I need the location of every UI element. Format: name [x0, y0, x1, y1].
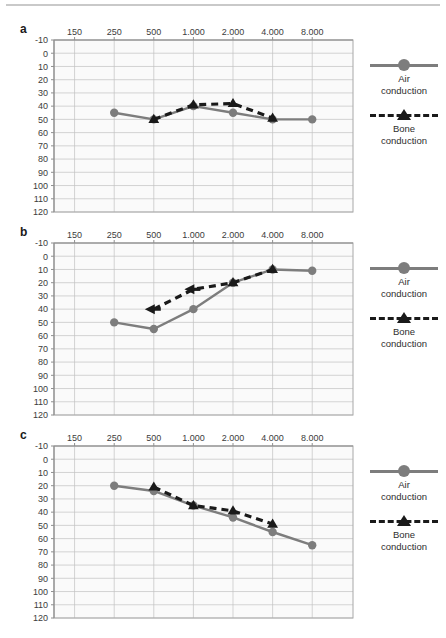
legend-bone-label-line1-a: Bone	[362, 123, 446, 134]
x-tick-label: 2.000	[222, 433, 245, 443]
legend-air-swatch-a	[362, 58, 446, 72]
legend-air-swatch-b	[362, 261, 446, 275]
legend-bone-c: Bone conduction	[362, 514, 446, 552]
air-conduction-point	[110, 481, 118, 489]
air-conduction-point	[308, 541, 316, 549]
legend-bone-b: Bone conduction	[362, 311, 446, 349]
y-tick-label: 50	[38, 521, 48, 531]
y-tick-label: 20	[38, 75, 48, 85]
y-tick-label: 70	[38, 141, 48, 151]
legend-bone-swatch-a	[362, 108, 446, 122]
audiogram-svg-a: 1502505001.0002.0004.0008.000-1001020304…	[0, 22, 360, 218]
y-tick-label: 40	[38, 507, 48, 517]
y-tick-label: 40	[38, 304, 48, 314]
legend-air-label-line2-b: conduction	[362, 288, 446, 299]
audiogram-svg-b: 1502505001.0002.0004.0008.000-1001020304…	[0, 225, 360, 421]
y-tick-label: 60	[38, 331, 48, 341]
triangle-marker-icon	[397, 312, 411, 323]
legend-bone-swatch-b	[362, 311, 446, 325]
y-tick-label: 70	[38, 547, 48, 557]
legend-a: Air conduction Bone conduction	[362, 58, 446, 148]
y-tick-label: -10	[35, 441, 48, 451]
y-tick-label: 10	[38, 62, 48, 72]
x-tick-label: 2.000	[222, 27, 245, 37]
audiogram-chart-b: 1502505001.0002.0004.0008.000-1001020304…	[0, 225, 360, 421]
x-tick-label: 1.000	[182, 433, 205, 443]
legend-bone-a: Bone conduction	[362, 108, 446, 146]
y-tick-label: 110	[34, 194, 48, 204]
x-tick-label: 150	[67, 433, 82, 443]
top-divider	[6, 4, 440, 6]
legend-air-label-line2-a: conduction	[362, 85, 446, 96]
y-tick-label: 50	[38, 115, 48, 125]
y-tick-label: 100	[33, 181, 48, 191]
x-tick-label: 250	[107, 27, 122, 37]
y-tick-label: 0	[43, 252, 48, 262]
y-tick-label: 20	[38, 278, 48, 288]
y-tick-label: 30	[38, 291, 48, 301]
air-conduction-point	[189, 305, 197, 313]
x-tick-label: 500	[146, 230, 161, 240]
y-tick-label: 120	[33, 410, 48, 420]
y-tick-label: 80	[38, 560, 48, 570]
air-conduction-point	[150, 325, 158, 333]
y-tick-label: 80	[38, 154, 48, 164]
y-tick-label: 80	[38, 357, 48, 367]
legend-bone-label-line1-c: Bone	[362, 529, 446, 540]
y-tick-label: 110	[34, 600, 48, 610]
y-tick-label: 10	[38, 265, 48, 275]
circle-marker-icon	[398, 59, 410, 71]
triangle-marker-icon	[397, 515, 411, 526]
y-tick-label: 30	[38, 88, 48, 98]
air-conduction-point	[268, 528, 276, 536]
y-tick-label: 0	[43, 455, 48, 465]
legend-air-c: Air conduction	[362, 464, 446, 502]
air-conduction-point	[229, 109, 237, 117]
x-tick-label: 4.000	[261, 230, 284, 240]
y-tick-label: 100	[33, 384, 48, 394]
legend-bone-label-line2-a: conduction	[362, 135, 446, 146]
legend-air-b: Air conduction	[362, 261, 446, 299]
y-tick-label: 70	[38, 344, 48, 354]
y-tick-label: -10	[35, 238, 48, 248]
audiogram-chart-c: 1502505001.0002.0004.0008.000-1001020304…	[0, 428, 360, 624]
air-conduction-point	[110, 109, 118, 117]
legend-bone-label-line2-b: conduction	[362, 338, 446, 349]
x-tick-label: 2.000	[222, 230, 245, 240]
y-tick-label: 90	[38, 574, 48, 584]
x-tick-label: 8.000	[301, 433, 324, 443]
x-tick-label: 1.000	[182, 27, 205, 37]
y-tick-label: 120	[33, 613, 48, 623]
audiogram-chart-a: 1502505001.0002.0004.0008.000-1001020304…	[0, 22, 360, 218]
x-tick-label: 4.000	[261, 433, 284, 443]
y-tick-label: 60	[38, 128, 48, 138]
circle-marker-icon	[398, 465, 410, 477]
x-tick-label: 250	[107, 433, 122, 443]
air-conduction-point	[229, 513, 237, 521]
x-tick-label: 250	[107, 230, 122, 240]
y-tick-label: 0	[43, 49, 48, 59]
legend-c: Air conduction Bone conduction	[362, 464, 446, 554]
legend-air-label-line1-a: Air	[362, 73, 446, 84]
air-conduction-point	[110, 318, 118, 326]
x-tick-label: 150	[67, 27, 82, 37]
y-tick-label: 90	[38, 168, 48, 178]
y-tick-label: -10	[35, 35, 48, 45]
y-tick-label: 40	[38, 101, 48, 111]
legend-air-a: Air conduction	[362, 58, 446, 96]
legend-bone-label-line1-b: Bone	[362, 326, 446, 337]
circle-marker-icon	[398, 262, 410, 274]
y-tick-label: 60	[38, 534, 48, 544]
legend-bone-label-line2-c: conduction	[362, 541, 446, 552]
x-tick-label: 500	[146, 27, 161, 37]
air-conduction-point	[308, 115, 316, 123]
triangle-marker-icon	[397, 109, 411, 120]
x-tick-label: 500	[146, 433, 161, 443]
x-tick-label: 8.000	[301, 27, 324, 37]
y-tick-label: 120	[33, 207, 48, 217]
legend-air-swatch-c	[362, 464, 446, 478]
y-tick-label: 100	[33, 587, 48, 597]
legend-air-label-line1-b: Air	[362, 276, 446, 287]
y-tick-label: 10	[38, 468, 48, 478]
x-tick-label: 8.000	[301, 230, 324, 240]
